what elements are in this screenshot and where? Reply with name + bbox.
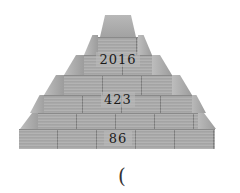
pyramid-step-3-right-side <box>172 75 192 95</box>
pyramid-step-1-right-side <box>138 35 152 55</box>
pyramid-step-5-right-side <box>196 113 216 129</box>
pyramid-step-2-right-side <box>152 55 172 75</box>
pyramid-step-4-right-side <box>190 95 206 113</box>
pyramid-label-middle: 423 <box>101 92 135 107</box>
pyramid-label-base: 86 <box>104 131 132 146</box>
pyramid-cap <box>100 15 136 37</box>
pyramid-step-2-left-side <box>64 55 84 75</box>
pyramid-step-3-left-side <box>44 75 64 95</box>
answer-blank: ( <box>118 164 126 188</box>
pyramid-step-5-left-side <box>20 113 40 129</box>
pyramid-step-5 <box>38 113 198 130</box>
pyramid-label-top: 2016 <box>96 52 140 67</box>
